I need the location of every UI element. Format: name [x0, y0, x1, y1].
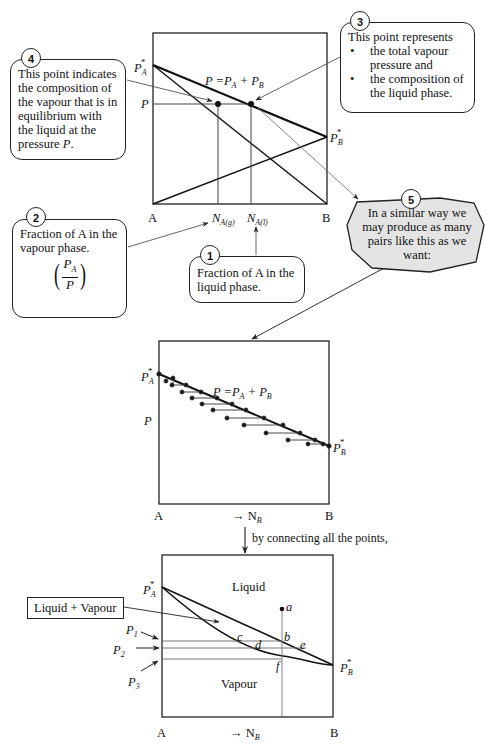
liquidus-line [162, 587, 333, 665]
chart-2-frame [159, 341, 329, 504]
pa-star-label: PA* [142, 579, 156, 599]
callout-3-number: 3 [350, 11, 370, 31]
p1-arrow [141, 632, 158, 639]
callout-2-arrow [128, 223, 208, 247]
callout-4-period: . [70, 137, 73, 151]
point-c-label: c [237, 630, 243, 644]
point-f-label: f [276, 659, 281, 673]
p2-label: P2 [112, 643, 125, 659]
chart-3-phase-diagram: Liquid Vapour a b c d e f PA* PB* P1 P2 … [112, 555, 353, 742]
p3-arrow [141, 661, 158, 671]
connector-caption: by connecting all the points, [252, 531, 388, 546]
p3-label: P3 [127, 675, 140, 691]
chart-1-frame [153, 33, 327, 204]
chart-2-many-pairs: PA* P PB* P =PA + PB A B → NB [140, 341, 346, 525]
liquid-point [248, 101, 254, 107]
axis-b-label: B [330, 726, 338, 740]
point-e-label: e [300, 638, 306, 652]
pb-star-label: PB* [339, 657, 353, 677]
fraction-denominator: P [66, 278, 74, 292]
vapour-point [215, 101, 221, 107]
axis-a-label: A [157, 726, 166, 740]
total-pressure-equation: P =PA + PB [204, 74, 264, 90]
two-phase-arrow [124, 607, 219, 622]
callout-3: This point represents the total vapour p… [340, 22, 475, 113]
total-pressure-equation: P =PA + PB [212, 385, 272, 401]
open-paren: ( [54, 259, 60, 289]
callout-3-bullet: the total vapour pressure and [348, 44, 468, 72]
point-a-label: a [286, 600, 292, 614]
liquid-fraction-label: NA(l) [246, 211, 268, 227]
callout-3-bullet: the composition of the liquid phase. [348, 72, 468, 100]
vapour-region-label: Vapour [221, 677, 258, 691]
p-axis-label: P [140, 97, 149, 111]
point-a-marker [280, 607, 285, 612]
vapour-fraction-label: NA(g) [211, 211, 235, 227]
axis-b-label: B [322, 211, 330, 225]
callout-5-number: 5 [401, 189, 421, 209]
two-phase-region-label: Liquid + Vapour [27, 597, 124, 619]
pa-star-label: PA* [133, 57, 147, 77]
chart-1-construction: PA* P PB* P =PA + PB A B NA(g) NA(l) [133, 33, 343, 227]
callout-2-text: Fraction of A in the vapour phase. [20, 227, 120, 255]
axis-a-label: A [148, 211, 157, 225]
callout-2: Fraction of A in the vapour phase. ( PA … [12, 219, 127, 318]
callout-3-bullets: the total vapour pressure and the compos… [348, 44, 468, 100]
callout-3-heading: This point represents [348, 30, 468, 44]
p-axis-label: P [143, 414, 152, 428]
pb-star-label: PB* [332, 437, 346, 457]
callout-2-number: 2 [26, 207, 46, 227]
composition-axis-label: → NB [230, 726, 260, 742]
point-b-label: b [284, 630, 290, 644]
callout-2-fraction: ( PA P ) [20, 257, 120, 292]
pa-star-label: PA* [140, 366, 154, 386]
close-paren: ) [80, 259, 86, 289]
callout-1-number: 1 [200, 245, 220, 265]
liquid-region-label: Liquid [232, 580, 266, 594]
axis-b-label: B [325, 509, 333, 523]
callout-4: This point indicates the composition of … [10, 59, 126, 160]
p1-label: P1 [125, 623, 138, 639]
callout-4-number: 4 [21, 48, 41, 68]
callout-5-text: In a similar way we may produce as many … [356, 206, 478, 262]
composition-axis-label: → NB [232, 509, 262, 525]
callout-1-text: Fraction of A in the liquid phase. [197, 266, 294, 294]
pb-star-label: PB* [329, 127, 343, 147]
point-d-label: d [255, 638, 262, 652]
axis-a-label: A [154, 509, 163, 523]
fraction-numerator: PA [62, 257, 79, 278]
callout-5-source-arrow [258, 108, 358, 199]
